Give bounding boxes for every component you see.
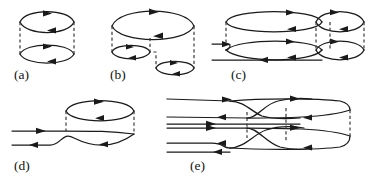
panel-b-arrowhead-top-lower (153, 33, 163, 39)
panel-c-arrowhead-incoming-lower (259, 57, 268, 63)
panel-c-arrowhead-lr-top (330, 39, 339, 45)
panel-b-arrowhead-right-lower (172, 71, 180, 77)
panel-e-arrowhead-upper-bottom (303, 115, 312, 121)
panel-a-label: (a) (14, 67, 29, 82)
panel-d-outgoing-line (12, 134, 134, 145)
panel-e-arrowhead-upper-top-left (222, 96, 232, 102)
panel-a-upper-loop-bottom-arc (20, 22, 74, 33)
panel-c-arrowhead-ur-top (330, 9, 339, 15)
panel-a-arrowhead-lower-top (43, 43, 52, 49)
panel-e-lower-loop-bottom-arc (230, 136, 350, 149)
panel-c-upper-right-loop-top-arc (316, 12, 364, 23)
panel-a-lower-loop-bottom-arc (20, 54, 74, 63)
panel-e-arrowhead-line6 (213, 149, 222, 155)
panel-b-arrowhead-left-lower (128, 55, 136, 61)
panel-c-upper-left-loop-bottom-arc (226, 22, 322, 32)
panel-e: (e) (167, 96, 350, 173)
panel-c-lower-left-loop-top-arc (226, 41, 322, 50)
panel-d-arrowhead-outgoing-left (29, 142, 38, 148)
panel-e-upper-loop-bottom-arc (247, 110, 350, 118)
panel-a: (a) (14, 10, 74, 82)
panel-c-arrowhead-ll-top (286, 39, 295, 45)
panel-b-arrowhead-top-upper (149, 8, 159, 15)
panel-c-arrowhead-ul-top (286, 9, 295, 15)
panel-e-arrowhead-line4 (206, 125, 216, 131)
panel-e-arrowhead-line2 (217, 114, 226, 120)
panel-c-lower-right-loop-bottom-arc (316, 50, 364, 60)
panel-e-lower-cross-curve-a (247, 128, 312, 149)
panel-d: (d) (12, 98, 134, 173)
panel-b-top-loop-bottom-arc (112, 26, 194, 40)
panel-b: (b) (110, 8, 194, 82)
panel-d-arrowhead-incoming (36, 128, 46, 134)
panel-e-label: (e) (190, 158, 205, 173)
panel-c-lower-right-loop-top-arc (316, 41, 364, 50)
panel-c-lower-left-loop-bottom-arc (226, 50, 322, 60)
diagram-canvas: (a) (b) (0, 0, 369, 181)
panel-c-upper-left-loop-top-arc (226, 12, 322, 23)
panel-c: (c) (212, 9, 364, 82)
panel-e-upper-cross-curve-a (247, 98, 312, 118)
diagram-figure: (a) (b) (0, 0, 369, 181)
panel-d-label: (d) (14, 158, 30, 173)
panel-b-label: (b) (110, 67, 126, 82)
panel-b-dashed-middle (150, 38, 156, 68)
panel-e-line-2 (167, 117, 247, 118)
panel-d-incoming-line (12, 131, 134, 134)
panel-d-arrowhead-outgoing-right (99, 141, 108, 147)
panel-e-upper-cross-curve-b (230, 101, 300, 119)
panel-c-upper-right-loop-bottom-arc (316, 22, 364, 32)
panel-e-line-1 (167, 99, 230, 101)
panel-d-arrowhead-loop-top (94, 98, 104, 104)
panel-c-label: (c) (231, 67, 246, 82)
